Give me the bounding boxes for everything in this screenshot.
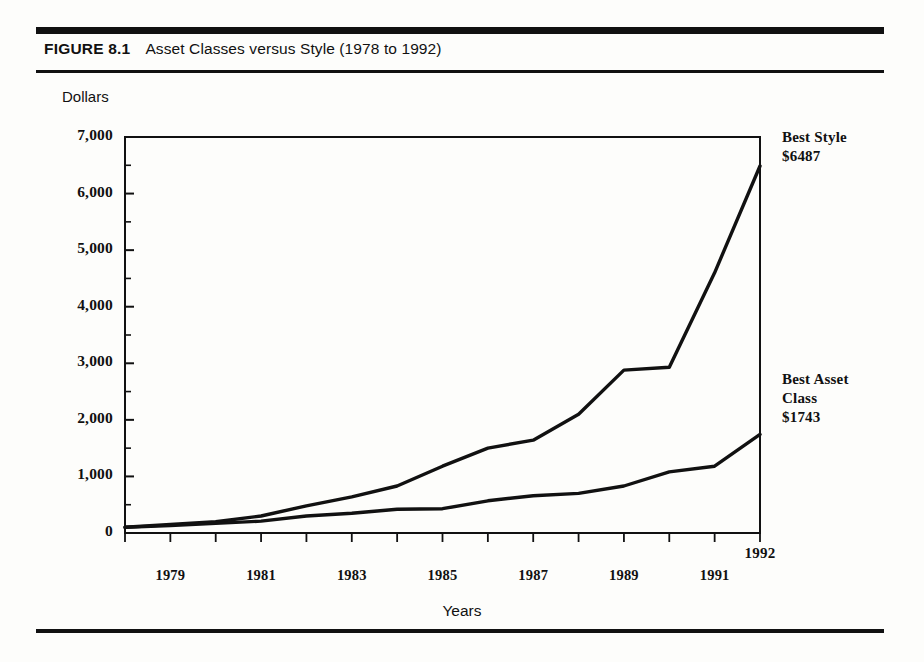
caption-underline-rule	[36, 70, 884, 73]
axes-group	[125, 137, 760, 542]
series-group	[125, 166, 760, 527]
x-tick-label: 1979	[135, 567, 205, 584]
y-tick-label: 5,000	[41, 239, 113, 257]
y-tick-label: 0	[41, 522, 113, 540]
x-tick-label: 1992	[725, 545, 795, 562]
x-tick-label: 1981	[226, 567, 296, 584]
figure-caption-text: Asset Classes versus Style (1978 to 1992…	[145, 40, 441, 57]
figure-caption: FIGURE 8.1Asset Classes versus Style (19…	[44, 40, 442, 58]
top-thick-rule	[36, 27, 884, 34]
x-tick-label: 1983	[317, 567, 387, 584]
x-tick-label: 1987	[498, 567, 568, 584]
y-tick-label: 2,000	[41, 409, 113, 427]
plot-canvas	[0, 78, 924, 623]
y-tick-label: 6,000	[41, 183, 113, 201]
y-tick-label: 1,000	[41, 465, 113, 483]
x-tick-label: 1985	[408, 567, 478, 584]
y-tick-label: 4,000	[41, 296, 113, 314]
figure-number: FIGURE 8.1	[44, 40, 130, 57]
y-tick-label: 7,000	[41, 126, 113, 144]
x-tick-label: 1991	[680, 567, 750, 584]
x-tick-label: 1989	[589, 567, 659, 584]
y-tick-label: 3,000	[41, 352, 113, 370]
chart-area: Dollars Years Best Style $6487 Best Asse…	[0, 78, 924, 623]
bottom-rule	[36, 629, 884, 633]
figure-page: FIGURE 8.1Asset Classes versus Style (19…	[0, 0, 924, 662]
